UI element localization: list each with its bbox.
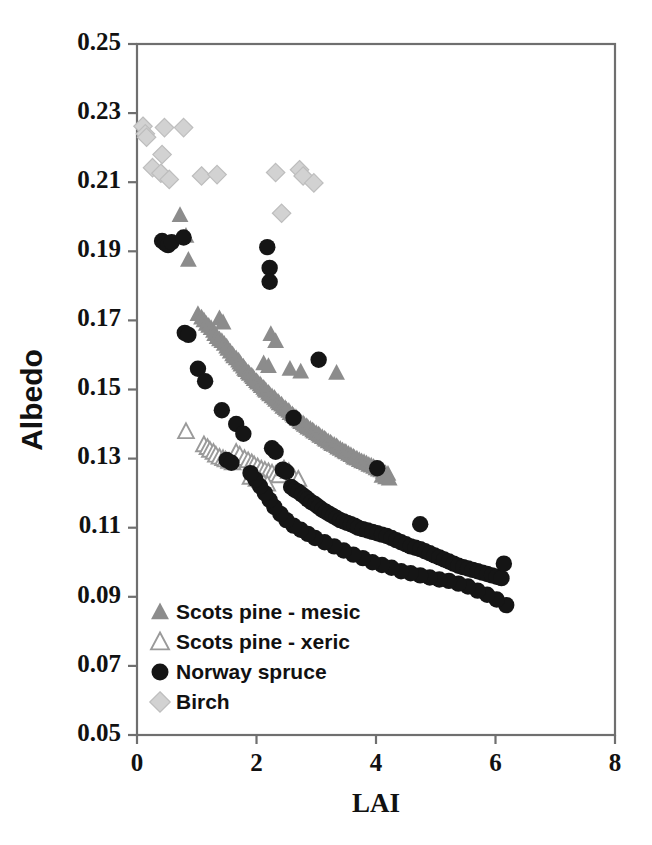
legend-item[interactable]: Scots pine - mesic: [151, 600, 361, 623]
y-tick-label: 0.21: [77, 166, 121, 193]
series-birch: [134, 117, 323, 222]
x-tick-label: 2: [250, 749, 263, 776]
chart-canvas: 0.050.070.090.110.130.150.170.190.210.23…: [0, 0, 652, 845]
x-axis-tick-labels: 02468: [131, 749, 622, 776]
x-axis-title: LAI: [352, 788, 400, 818]
data-point: [208, 165, 226, 183]
data-point: [192, 167, 210, 185]
data-point: [285, 410, 301, 426]
data-point: [369, 460, 385, 476]
y-tick-label: 0.19: [77, 235, 121, 262]
data-point: [180, 327, 196, 343]
x-tick-label: 0: [131, 749, 144, 776]
y-tick-label: 0.11: [79, 511, 121, 538]
legend-item[interactable]: Birch: [150, 690, 230, 713]
data-point: [235, 426, 251, 442]
data-point: [174, 118, 192, 136]
legend-item[interactable]: Scots pine - xeric: [151, 630, 350, 653]
y-tick-label: 0.07: [77, 650, 121, 677]
scatter-plot-figure: 0.050.070.090.110.130.150.170.190.210.23…: [0, 0, 652, 845]
legend-marker-triangle-open: [151, 633, 169, 650]
data-point: [175, 229, 191, 245]
legend-marker-triangle-filled: [151, 603, 169, 620]
legend-marker-circle-filled: [152, 664, 169, 681]
x-tick-label: 8: [609, 749, 622, 776]
y-tick-label: 0.09: [77, 581, 121, 608]
legend-label: Scots pine - mesic: [176, 600, 361, 623]
data-point: [259, 239, 275, 255]
data-point: [496, 555, 512, 571]
data-point: [278, 464, 294, 480]
data-point: [197, 373, 213, 389]
y-tick-label: 0.25: [77, 28, 121, 55]
y-tick-label: 0.23: [77, 97, 121, 124]
data-point: [155, 118, 173, 136]
x-tick-label: 4: [370, 749, 383, 776]
x-tick-label: 6: [489, 749, 502, 776]
y-axis-tick-labels: 0.050.070.090.110.130.150.170.190.210.23…: [77, 28, 121, 746]
data-point: [172, 206, 189, 222]
y-tick-label: 0.17: [77, 304, 121, 331]
chart-legend: Scots pine - mesicScots pine - xericNorw…: [150, 600, 361, 713]
data-point: [266, 163, 284, 181]
data-point: [214, 402, 230, 418]
data-point: [328, 364, 345, 380]
legend-marker-diamond: [150, 692, 170, 712]
data-points: [134, 117, 515, 613]
y-tick-label: 0.15: [77, 373, 121, 400]
data-point: [180, 251, 197, 267]
data-point: [242, 465, 258, 481]
series-norway-spruce: [154, 229, 515, 613]
data-point: [272, 204, 290, 222]
legend-item[interactable]: Norway spruce: [152, 660, 327, 683]
legend-label: Scots pine - xeric: [176, 630, 350, 653]
data-point: [310, 352, 326, 368]
data-point: [412, 516, 428, 532]
legend-label: Birch: [176, 690, 230, 713]
data-point: [267, 443, 283, 459]
data-point: [178, 423, 194, 438]
data-point: [493, 570, 509, 586]
y-axis-title: Albedo: [15, 349, 48, 451]
data-point: [261, 274, 277, 290]
legend-label: Norway spruce: [176, 660, 327, 683]
y-tick-label: 0.05: [77, 719, 121, 746]
data-point: [223, 455, 239, 471]
y-tick-label: 0.13: [77, 442, 121, 469]
